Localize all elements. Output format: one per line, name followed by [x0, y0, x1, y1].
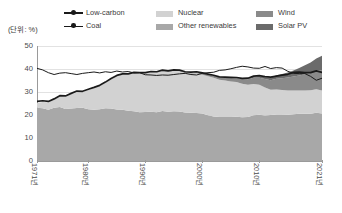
- x-tick-label: 2000년: [195, 163, 206, 186]
- legend-label-wind: Wind: [278, 8, 295, 17]
- x-tick-label: 2010년: [252, 163, 263, 186]
- x-tick-label: 1971년: [30, 163, 41, 186]
- low-carbon-line-icon: [64, 9, 83, 18]
- y-tick-label: 40: [5, 65, 33, 73]
- legend-label-solar-pv: Solar PV: [278, 21, 307, 30]
- other-renewables-swatch-icon: [156, 24, 173, 30]
- area-other-renewables: [37, 107, 322, 161]
- wind-swatch-icon: [256, 11, 273, 17]
- plot-area: [37, 46, 322, 161]
- nuclear-swatch-icon: [156, 11, 173, 17]
- legend-label-nuclear: Nuclear: [178, 8, 203, 17]
- x-axis: 1971년1980년1990년2000년2010년2021년: [0, 163, 342, 213]
- legend-label-other-renewables: Other renewables: [178, 21, 236, 30]
- x-tick-label: 1990년: [138, 163, 149, 186]
- y-tick-label: 30: [5, 88, 33, 96]
- chart-figure: Low-carbon Coal Nuclear Other renewables…: [0, 0, 342, 213]
- y-tick-label: 20: [5, 111, 33, 119]
- x-axis-line: [37, 161, 322, 162]
- plot-svg: [37, 46, 322, 161]
- y-tick-label: 10: [5, 134, 33, 142]
- chart-legend: Low-carbon Coal Nuclear Other renewables…: [0, 9, 342, 35]
- legend-label-coal: Coal: [86, 21, 101, 30]
- x-tick-label: 2021년: [315, 163, 326, 186]
- solar-pv-swatch-icon: [256, 24, 273, 30]
- coal-line-icon: [64, 22, 83, 31]
- y-tick-label: 50: [5, 42, 33, 50]
- legend-label-low-carbon: Low-carbon: [86, 8, 125, 17]
- x-tick-label: 1980년: [81, 163, 92, 186]
